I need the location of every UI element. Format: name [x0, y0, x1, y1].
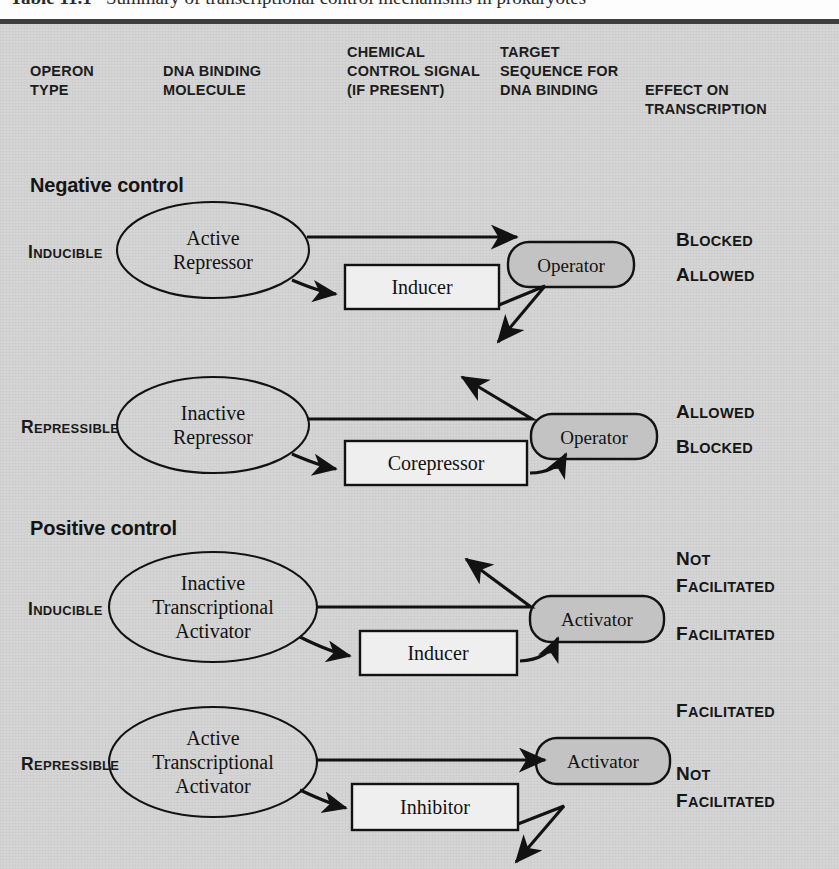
column-header-chemical-signal: CHEMICAL CONTROL SIGNAL (IF PRESENT)	[347, 43, 480, 100]
chemical-signal-label: Corepressor	[388, 451, 485, 475]
binding-molecule-label: Inactive Transcriptional Activator	[152, 571, 273, 643]
row-label-positive-inducible: INDUCIBLE	[28, 599, 103, 620]
row-label-negative-inducible: INDUCIBLE	[28, 242, 103, 263]
target-node-label: Activator	[561, 608, 633, 631]
table-figure: Table 11.1 Summary of transcriptional co…	[0, 0, 839, 869]
column-header-target-sequence: TARGET SEQUENCE FOR DNA BINDING	[500, 43, 618, 100]
target-node-label: Activator	[567, 750, 639, 773]
effect-with-signal-negative-repressible: BLOCKED	[676, 434, 753, 461]
chemical-signal-label: Inducer	[407, 641, 468, 665]
effect-without-signal-negative-inducible: BLOCKED	[676, 227, 753, 254]
effect-without-signal-positive-repressible: FACILITATED	[676, 698, 775, 725]
effect-without-signal-positive-inducible: NOTFACILITATED	[676, 546, 775, 600]
binding-molecule-label: Active Repressor	[173, 226, 253, 274]
figure-title-number: Table 11.1	[10, 0, 92, 8]
effect-with-signal-positive-inducible: FACILITATED	[676, 621, 775, 648]
chemical-signal-label: Inducer	[391, 275, 452, 299]
figure-title-caption: Summary of transcriptional control mecha…	[106, 0, 586, 8]
table-body: OPERON TYPE DNA BINDING MOLECULE CHEMICA…	[0, 24, 839, 869]
diagram-text: OPERON TYPE DNA BINDING MOLECULE CHEMICA…	[0, 24, 839, 869]
binding-molecule-label: Inactive Repressor	[173, 401, 253, 449]
row-label-positive-repressible: REPRESSIBLE	[21, 754, 119, 775]
figure-title: Table 11.1 Summary of transcriptional co…	[10, 0, 586, 9]
effect-with-signal-positive-repressible: NOTFACILITATED	[676, 761, 775, 815]
chemical-signal-label: Inhibitor	[400, 795, 470, 819]
section-heading-negative-control: Negative control	[30, 174, 184, 197]
column-header-operon-type: OPERON TYPE	[30, 62, 94, 100]
row-label-negative-repressible: REPRESSIBLE	[21, 417, 119, 438]
section-heading-positive-control: Positive control	[30, 517, 177, 540]
effect-with-signal-negative-inducible: ALLOWED	[676, 262, 755, 289]
target-node-label: Operator	[537, 254, 605, 277]
column-header-dna-binding: DNA BINDING MOLECULE	[163, 62, 261, 100]
figure-title-strip: Table 11.1 Summary of transcriptional co…	[0, 0, 839, 19]
target-node-label: Operator	[560, 426, 628, 449]
binding-molecule-label: Active Transcriptional Activator	[152, 726, 273, 798]
column-header-effect: EFFECT ON TRANSCRIPTION	[645, 81, 767, 119]
effect-without-signal-negative-repressible: ALLOWED	[676, 399, 755, 426]
